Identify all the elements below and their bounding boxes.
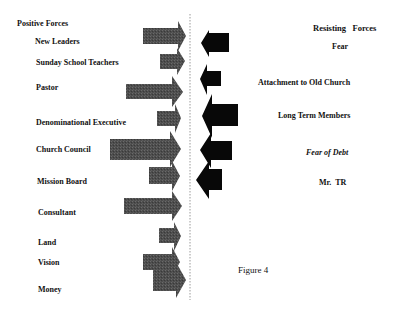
positive-force-label: Consultant xyxy=(38,208,76,218)
positive-forces-heading: Positive Forces xyxy=(17,19,68,29)
arrow-left-icon-mr-tr xyxy=(196,161,222,199)
resisting-forces-heading: Resisting Forces xyxy=(313,23,376,33)
arrow-right-icon-pastor xyxy=(126,76,183,107)
arrow-right-icon-mission-board xyxy=(149,161,180,191)
figure-caption: Figure 4 xyxy=(238,265,268,275)
positive-force-label: Money xyxy=(38,285,62,295)
positive-force-label: Land xyxy=(38,238,56,248)
positive-force-label: Sunday School Teachers xyxy=(36,58,119,68)
resisting-force-label: Fear of Debt xyxy=(306,148,348,158)
positive-force-label: Denominational Executive xyxy=(36,118,126,128)
positive-force-label: Mission Board xyxy=(37,177,87,187)
positive-force-label: Pastor xyxy=(36,83,58,93)
arrow-left-icon-attachment-to-old-church xyxy=(200,64,221,95)
resisting-force-label: Fear xyxy=(332,42,348,52)
resisting-arrows xyxy=(196,30,238,199)
arrow-right-icon-sunday-school-teachers xyxy=(160,48,185,75)
arrow-right-icon-consultant xyxy=(124,191,182,221)
resisting-force-label: Attachment to Old Church xyxy=(258,78,350,88)
arrow-right-icon-denominational-executive xyxy=(157,104,181,133)
positive-force-label: Vision xyxy=(38,258,60,268)
arrow-left-icon-fear-of-debt xyxy=(200,133,232,168)
resisting-force-label: Mr. TR xyxy=(319,178,346,188)
arrow-right-icon-church-council xyxy=(110,131,181,167)
arrow-right-icon-new-leaders xyxy=(143,21,186,51)
arrow-left-icon-fear xyxy=(201,30,229,57)
positive-force-label: New Leaders xyxy=(35,37,80,47)
resisting-force-label: Long Term Members xyxy=(278,111,350,121)
positive-force-label: Church Council xyxy=(36,145,91,155)
arrow-left-icon-long-term-members xyxy=(202,94,238,138)
positive-arrows xyxy=(110,21,186,298)
arrow-right-icon-land xyxy=(159,222,181,251)
